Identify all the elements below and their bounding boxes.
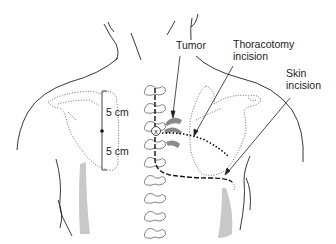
back-anatomy-drawing: x [0, 0, 336, 244]
vertebra [144, 212, 165, 222]
torso-outline [17, 56, 303, 236]
thoracotomy-incision-label: Thoracotomy incision [233, 38, 294, 62]
scale-lower-text: 5 cm [106, 145, 129, 157]
leader-arrows [171, 56, 290, 175]
right-scapula [190, 86, 261, 175]
neck-outline [104, 14, 198, 60]
thoracotomy-label-line2: incision [233, 50, 294, 62]
skin-label-line1: Skin [286, 67, 321, 79]
tumor-arrowhead [171, 111, 175, 118]
thoracotomy-label-line1: Thoracotomy [233, 38, 294, 50]
scale-lower-label: 5 cm [106, 145, 129, 157]
skin-arrowhead [225, 168, 230, 175]
tumor-label-text: Tumor [176, 39, 206, 51]
spine-marker-label: x [154, 128, 158, 135]
scale-upper-text: 5 cm [106, 106, 129, 118]
vertebra [144, 229, 165, 239]
vertebra [144, 176, 165, 186]
diagram-canvas: x Tumor Thoracotomy incision Skin incisi… [0, 0, 336, 244]
skin-incision-label: Skin incision [286, 67, 321, 91]
tumor-label: Tumor [176, 39, 206, 51]
skin-incision-line [155, 88, 232, 182]
scale-bar-midpoint [100, 129, 104, 133]
right-shaded-region [218, 188, 232, 238]
scale-upper-label: 5 cm [106, 106, 129, 118]
left-shaded-region [79, 162, 90, 234]
vertebra [144, 194, 165, 204]
left-scapula [48, 91, 119, 170]
spine-marker: x [152, 127, 161, 136]
skin-incision-tail [232, 182, 235, 190]
skin-label-line2: incision [286, 79, 321, 91]
